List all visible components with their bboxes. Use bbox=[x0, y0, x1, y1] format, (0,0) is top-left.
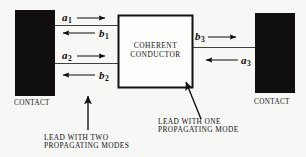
a2-channel-label: a2 bbox=[62, 50, 72, 63]
right-lead-caption-line-2: PROPAGATING MODE bbox=[158, 125, 239, 133]
a1-channel-label: a1 bbox=[62, 12, 72, 25]
b3-channel-label: b3 bbox=[195, 31, 205, 44]
conductor-label-line-1: COHERENT bbox=[118, 41, 193, 50]
b2-channel-label: b2 bbox=[99, 70, 109, 83]
left-lead-caption-line-2: PROPAGATING MODES bbox=[44, 141, 129, 149]
transport-schematic-figure: a1 b1 a2 b2 b3 a3 COHERENT CONDUCTOR CON… bbox=[0, 0, 306, 157]
right-contact-block bbox=[256, 14, 295, 93]
a3-channel-label: a3 bbox=[241, 55, 251, 68]
right-lead-caption: LEAD WITH ONE PROPAGATING MODE bbox=[158, 117, 239, 134]
conductor-label-line-2: CONDUCTOR bbox=[118, 50, 193, 59]
coherent-conductor-label: COHERENT CONDUCTOR bbox=[118, 41, 193, 60]
right-contact-label: CONTACT bbox=[254, 99, 290, 106]
b1-channel-label: b1 bbox=[99, 28, 109, 41]
left-lead-caption: LEAD WITH TWO PROPAGATING MODES bbox=[44, 133, 129, 150]
left-contact-label: CONTACT bbox=[14, 100, 50, 107]
left-contact-block bbox=[16, 11, 55, 96]
